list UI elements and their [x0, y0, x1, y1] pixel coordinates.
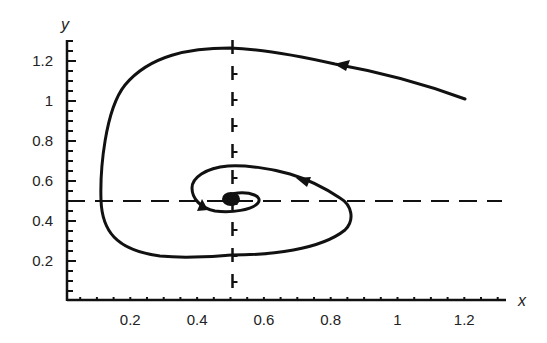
x-tick-label: 1	[393, 311, 401, 328]
trajectory-curve	[101, 48, 465, 257]
x-tick-label: 0.2	[120, 311, 141, 328]
equilibrium-point	[222, 192, 240, 206]
y-tick-label: 1	[45, 92, 53, 109]
tick-labels: 0.20.40.60.811.20.20.40.60.811.2	[32, 52, 475, 328]
x-tick-label: 0.8	[320, 311, 341, 328]
y-tick-label: 1.2	[32, 52, 53, 69]
y-axis-ticks	[67, 41, 76, 291]
y-tick-label: 0.4	[32, 212, 53, 229]
x-tick-label: 0.4	[187, 311, 208, 328]
y-tick-label: 0.8	[32, 132, 53, 149]
phase-plane-chart: 0.20.40.60.811.20.20.40.60.811.2 x y	[0, 0, 547, 343]
x-tick-label: 0.6	[253, 311, 274, 328]
y-axis-label: y	[60, 16, 70, 33]
arrow-icon	[296, 177, 311, 187]
x-axis-label: x	[517, 292, 527, 309]
y-tick-label: 0.2	[32, 252, 53, 269]
x-tick-label: 1.2	[454, 311, 475, 328]
y-tick-label: 0.6	[32, 172, 53, 189]
axes	[67, 40, 506, 301]
